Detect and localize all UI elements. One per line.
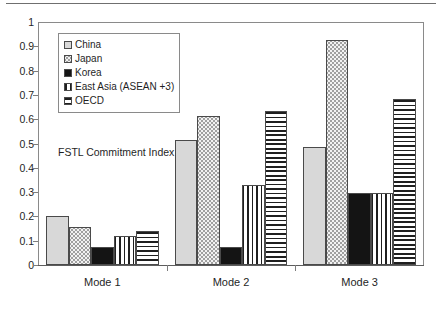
bar-oecd-mode-1	[136, 231, 159, 265]
legend-item-japan: Japan	[64, 52, 174, 65]
y-axis-tick-label: 0.8	[0, 66, 34, 76]
y-axis-tick-label: 0.2	[0, 211, 34, 221]
legend-item-korea: Korea	[64, 66, 174, 79]
top-divider-rule	[6, 3, 436, 4]
chart-figure: 10.90.80.70.60.50.40.30.20.10 China Japa…	[0, 0, 442, 309]
y-axis-tick-label: 0.5	[0, 139, 34, 149]
bar-east-asia-mode-2	[242, 185, 265, 265]
legend-label-east-asia: East Asia (ASEAN +3)	[75, 81, 174, 92]
legend-swatch-east-asia-icon	[64, 83, 72, 91]
bar-china-mode-2	[175, 140, 198, 265]
y-axis-tick-label: 0.9	[0, 41, 34, 51]
bar-japan-mode-2	[197, 116, 220, 265]
y-axis-tick-label: 0	[0, 260, 34, 270]
bar-korea-mode-2	[220, 247, 243, 265]
bar-korea-mode-3	[348, 193, 371, 265]
legend-item-east-asia: East Asia (ASEAN +3)	[64, 80, 174, 93]
x-axis-label-2: Mode 2	[176, 276, 286, 288]
y-axis-tick-label: 0.3	[0, 187, 34, 197]
x-axis-tick-mark	[167, 265, 168, 271]
bar-east-asia-mode-3	[371, 193, 394, 265]
x-axis-line	[38, 265, 424, 266]
bar-japan-mode-3	[326, 40, 349, 265]
legend-label-china: China	[75, 39, 101, 50]
y-axis-tick-label: 0.1	[0, 236, 34, 246]
legend-label-korea: Korea	[75, 67, 102, 78]
y-axis-tick-label: 0.7	[0, 90, 34, 100]
x-axis-label-1: Mode 1	[47, 276, 157, 288]
legend-swatch-japan-icon	[64, 55, 72, 63]
x-axis-tick-mark	[295, 265, 296, 271]
bar-japan-mode-1	[69, 227, 92, 265]
bar-east-asia-mode-1	[114, 236, 137, 265]
legend-label-japan: Japan	[75, 53, 102, 64]
bar-oecd-mode-3	[393, 99, 416, 265]
legend-item-china: China	[64, 38, 174, 51]
legend-label-oecd: OECD	[75, 95, 104, 106]
x-axis-label-3: Mode 3	[305, 276, 415, 288]
chart-legend: China Japan Korea East Asia (ASEAN +3) O…	[58, 33, 180, 113]
bar-china-mode-3	[303, 147, 326, 265]
legend-swatch-korea-icon	[64, 69, 72, 77]
y-axis-tick-label: 0.4	[0, 163, 34, 173]
legend-swatch-oecd-icon	[64, 97, 72, 105]
y-axis-tick-label: 0.6	[0, 114, 34, 124]
index-annotation: FSTL Commitment Index	[58, 146, 174, 158]
legend-item-oecd: OECD	[64, 94, 174, 107]
bar-oecd-mode-2	[265, 111, 288, 265]
legend-swatch-china-icon	[64, 41, 72, 49]
bar-korea-mode-1	[91, 247, 114, 265]
y-axis-tick-label: 1	[0, 17, 34, 27]
bar-china-mode-1	[46, 216, 69, 265]
